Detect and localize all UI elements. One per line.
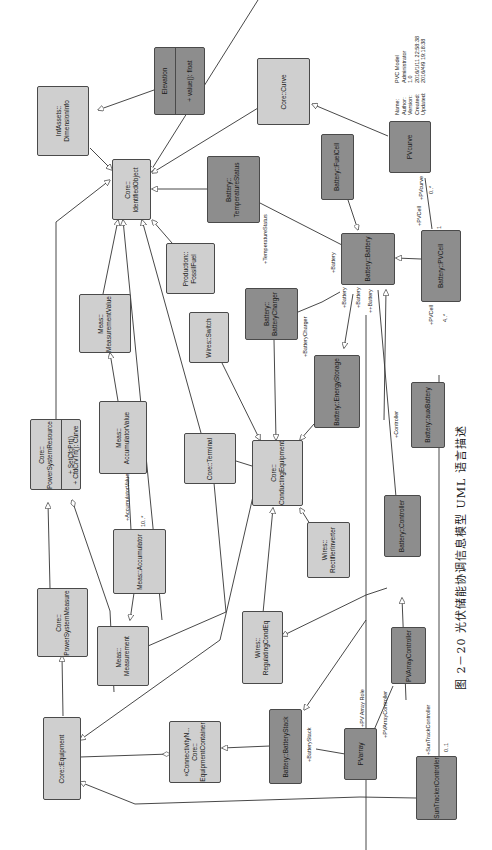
class-wires-rectifierinverter[interactable]: Wires:: RectifierInverter [307, 522, 350, 578]
role-batterystack: +BatteryStack [306, 728, 312, 762]
class-wires-regulatingcondeq[interactable]: Wires:: RegulatingCondEq [242, 611, 283, 684]
class-label: Core:: PowerSystemMeasure [55, 590, 71, 655]
class-core-curve[interactable]: Core::Curve [257, 58, 310, 125]
class-label: Battery::auxBattery [424, 387, 432, 442]
class-label: Core::Curve [279, 74, 287, 109]
class-battery-pvcell[interactable]: Battery::PVCell [421, 230, 461, 302]
class-label: SunTrackerController [433, 757, 441, 819]
figure-caption: 图 2－20 光伏储能协调信息模型 UML 语言描述 [452, 425, 468, 690]
meta-updated-key: Updated: [420, 89, 427, 115]
role-batterycharger: +BatteryCharger [302, 316, 308, 357]
class-label: InfAssets:: DimensionInfo [55, 100, 71, 142]
class-core-identifiedobject[interactable]: Core:: IdentifiedObject [112, 159, 151, 220]
class-label: Wires:: RectifierInverter [321, 527, 337, 573]
class-battery-controller[interactable]: Battery::Controller [384, 495, 421, 557]
role-pvcell-top-mult: 1 [436, 226, 442, 229]
role-pvcell-bottom: +PVCell [428, 305, 434, 325]
class-pvarray[interactable]: PVarray [344, 728, 377, 780]
class-core-conductingequipment[interactable]: Core:: ConductingEquipment [252, 440, 303, 506]
class-label: Core::Equipment [58, 734, 66, 783]
class-label: Battery::Battery [364, 237, 372, 282]
class-label: Battery::PVCell [437, 244, 445, 288]
role-suntrackcontroller: +SunTrackController [425, 705, 431, 755]
class-pvcurve[interactable]: PVcurve [389, 121, 431, 173]
class-meas-measurement[interactable]: Meas:: Measurement [97, 626, 149, 686]
class-pvarraycontroller[interactable]: PVArrayController [391, 627, 426, 684]
class-battery-battery[interactable]: Battery::Battery [341, 233, 395, 285]
class-production-fossilfuel[interactable]: Production:: FossilFuel [166, 243, 215, 294]
class-label: Core:: ConductingEquipment [270, 441, 286, 505]
class-attribute: + value(): float [186, 60, 194, 101]
class-label: Core:: IdentifiedObject [124, 167, 140, 212]
class-label: Battery::FuelCell [334, 143, 342, 191]
class-label: Meas:: Measurement [115, 636, 131, 676]
role-controller: +Controller [393, 411, 399, 438]
class-label: Meas::Accumulator [136, 534, 144, 590]
role-pvcell-bottom-mult: 4..* [442, 314, 448, 322]
class-battery-temperaturestatus[interactable]: Battery:: TemperatureStatus [207, 156, 260, 223]
class-meas-measurementvalue[interactable]: Meas:: MeasurementValue [79, 294, 131, 353]
class-wires-switch[interactable]: Wires::Switch [189, 312, 229, 363]
class-label: Battery:: TemperatureStatus [226, 162, 242, 217]
class-label: Meas:: MeasurementValue [97, 296, 113, 352]
class-label: Battery:: BatteryCharger [263, 292, 279, 336]
class-operation: + CfdCrvTrt(): Curve [72, 425, 80, 484]
role-battery-3: +Battery [355, 287, 361, 308]
class-label: Meas:: AccumulatorValue [115, 411, 131, 463]
class-label: Wires::Switch [205, 318, 213, 357]
role-battery-4: ++Battery [367, 289, 373, 313]
class-core-powersystemmeasure[interactable]: Core:: PowerSystemMeasure [37, 588, 88, 657]
role-suntrack-mult: 0..1 [443, 743, 449, 752]
class-label: Battery::EnergyStorage [333, 358, 341, 426]
class-label: PVarray [357, 743, 365, 766]
class-suntrackercontroller[interactable]: SunTrackerController [416, 756, 457, 820]
class-core-equipment[interactable]: Core::Equipment [43, 717, 81, 800]
role-battery-2: +Battery [341, 287, 347, 308]
class-label: Core:: PowerSystemResource [38, 421, 54, 489]
class-meas-accumulatorvalue[interactable]: Meas:: AccumulatorValue [99, 401, 147, 474]
class-core-terminal[interactable]: Core::Terminal [184, 433, 236, 484]
role-pvcurve-mult: 0..* [428, 186, 434, 194]
class-label: Battery::BatteryStack [282, 716, 290, 777]
class-battery-fuelcell[interactable]: Battery::FuelCell [321, 134, 354, 200]
role-temperaturestatus: +TemperatureStatus [262, 214, 268, 264]
class-core-equipmentcontainer[interactable]: «ConnectivityN... Core:: EquipmentContai… [169, 721, 221, 783]
meta-updated-value: 2016/4/9 19:18:38 [420, 39, 427, 83]
class-label: «ConnectivityN... Core:: EquipmentContai… [183, 722, 207, 781]
role-accumulatorvalue-mult: 10..* [140, 516, 146, 527]
class-battery-auxbattery[interactable]: Battery::auxBattery [411, 382, 445, 448]
class-core-powersystemresource[interactable]: Core:: PowerSystemResource + SetCfcPrt()… [30, 419, 81, 490]
class-battery-batterycharger[interactable]: Battery:: BatteryCharger [245, 288, 298, 340]
class-label: PVArrayController [405, 630, 413, 682]
class-elevation[interactable]: Elevation + value(): float [154, 47, 205, 115]
role-pvcurve: +PVcurve [418, 176, 424, 200]
class-infassets-dimensioninfo[interactable]: InfAssets:: DimensionInfo [37, 86, 89, 156]
class-label: Wires:: RegulatingCondEq [255, 620, 271, 675]
class-label: PVcurve [406, 135, 414, 160]
class-meas-accumulator[interactable]: Meas::Accumulator [113, 529, 166, 594]
role-pvcell-top: +PVCell [416, 206, 422, 226]
role-pv-array-role: +PV Array Role [359, 689, 365, 727]
class-label: Core::Terminal [206, 437, 214, 479]
uml-diagram-canvas: Name:PVC Model Author:Administrator Vers… [0, 0, 492, 850]
class-battery-batterystack[interactable]: Battery::BatteryStack [269, 709, 302, 784]
role-accumulatorvalue: +AccumulatorValue [124, 474, 130, 521]
class-label: Production:: FossilFuel [183, 251, 199, 286]
class-battery-energystorage[interactable]: Battery::EnergyStorage [314, 355, 360, 428]
role-pvarraycontroller: +PVArrayController [382, 691, 388, 738]
class-label: Elevation [161, 68, 169, 95]
model-metadata: Name:PVC Model Author:Administrator Vers… [394, 36, 427, 115]
role-battery-1: +Battery [330, 252, 336, 273]
class-label: Battery::Controller [399, 500, 407, 552]
